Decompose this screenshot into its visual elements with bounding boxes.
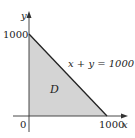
y-axis-arrow-icon: [27, 11, 32, 18]
region-diagram: y 1000 0 1000 x D x + y = 1000: [0, 0, 135, 138]
x-axis-label: x: [122, 119, 128, 130]
x-tick-label: 1000: [99, 119, 124, 130]
origin-label: 0: [20, 119, 26, 130]
y-axis-label: y: [20, 10, 27, 21]
x-axis-arrow-icon: [121, 114, 128, 119]
region-label: D: [49, 83, 59, 96]
y-tick-label: 1000: [3, 29, 28, 40]
line-equation-label: x + y = 1000: [68, 58, 135, 69]
